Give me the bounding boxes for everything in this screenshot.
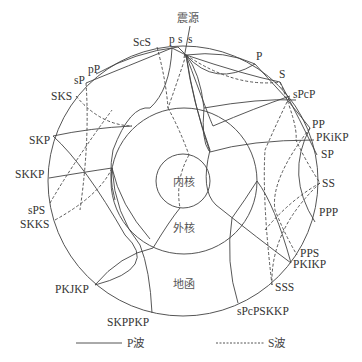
ray-sPcPSKKP bbox=[230, 181, 257, 303]
mantle-label: 地函 bbox=[173, 278, 195, 291]
ray-upper-left bbox=[111, 48, 172, 200]
phase-label-PP: PP bbox=[312, 118, 325, 130]
phase-label-PKiKP: PKiKP bbox=[316, 131, 349, 143]
phase-label-SKPPKP: SKPPKP bbox=[107, 316, 149, 328]
ray-PKJKP bbox=[95, 208, 180, 285]
ray-PPS bbox=[274, 128, 310, 255]
ray-SKKP bbox=[49, 168, 150, 239]
phase-label-PKIKP: PKIKP bbox=[293, 258, 326, 270]
phase-label-sPcP: sPcP bbox=[293, 88, 315, 100]
ray-sPS bbox=[50, 110, 112, 203]
legend: P波 S波 bbox=[76, 337, 286, 349]
hypocenter-label: 震源 bbox=[177, 11, 199, 25]
phase-label-SKKS: SKKS bbox=[20, 218, 49, 230]
phase-label-SKP: SKP bbox=[29, 134, 50, 146]
phase-label-sP: sP bbox=[74, 74, 85, 86]
inner-core-label: 内核 bbox=[173, 175, 195, 189]
source-p-label: p bbox=[169, 33, 175, 46]
phase-label-PKJKP: PKJKP bbox=[55, 283, 89, 295]
phase-label-SKKP: SKKP bbox=[15, 168, 44, 180]
outer-core-label: 外核 bbox=[173, 221, 195, 235]
phase-label-SS: SS bbox=[322, 177, 335, 189]
phase-label-SKS: SKS bbox=[51, 90, 72, 102]
phase-label-S: S bbox=[279, 68, 285, 80]
legend-p-wave-label: P波 bbox=[127, 337, 145, 349]
phase-label-sPS: sPS bbox=[28, 204, 45, 216]
seismic-ray-path-diagram: 内核 外核 地函 震源 p s s ScS pP sP SKS SKP SKKP… bbox=[0, 0, 362, 362]
ray-SKS bbox=[76, 96, 132, 126]
ray-ScS bbox=[157, 47, 168, 108]
phase-label-sPcPSKKP: sPcPSKKP bbox=[237, 305, 289, 317]
ray-sP bbox=[86, 48, 186, 83]
legend-s-wave-label: S波 bbox=[268, 337, 286, 349]
ray-SKP-core bbox=[53, 136, 137, 285]
ray-SKP bbox=[53, 126, 132, 136]
ray-core-dashed bbox=[168, 108, 189, 155]
ray-SSS-2 bbox=[264, 96, 290, 285]
phase-label-ScS: ScS bbox=[133, 36, 151, 48]
phase-label-PPP: PPP bbox=[319, 206, 338, 218]
phase-label-SP: SP bbox=[321, 148, 334, 160]
phase-label-P: P bbox=[256, 50, 262, 62]
ray-top-right-arc bbox=[204, 100, 296, 108]
source-s-left-label: s bbox=[178, 33, 183, 45]
phase-label-pP: pP bbox=[88, 63, 100, 76]
phase-label-SSS: SSS bbox=[275, 281, 294, 293]
ray-SKPPKP bbox=[112, 168, 152, 313]
